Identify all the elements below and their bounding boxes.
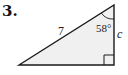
hypotenuse-label: 7 (58, 24, 64, 38)
triangle-figure: 7 58° c (0, 0, 128, 75)
side-c-label: c (117, 27, 123, 41)
angle-label: 58° (96, 22, 111, 34)
triangle (19, 5, 114, 65)
